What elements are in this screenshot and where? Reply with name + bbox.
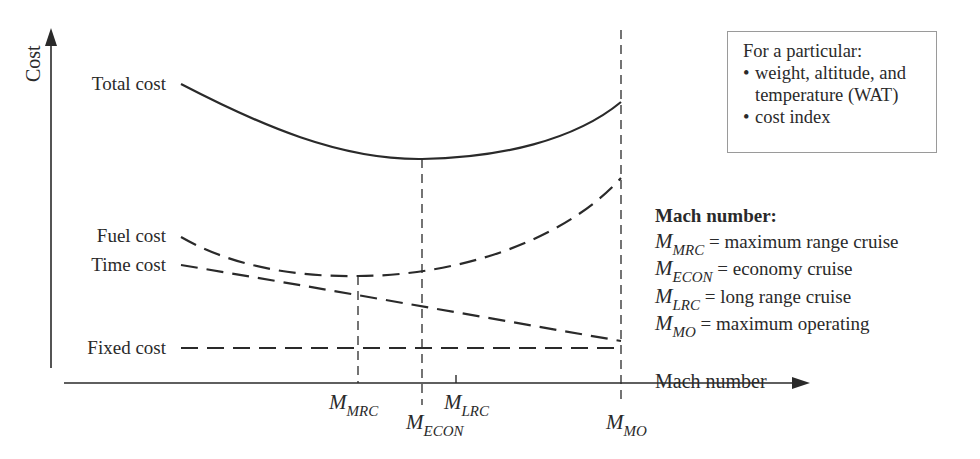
x-axis-label: Mach number bbox=[655, 371, 767, 391]
x-axis-arrow-icon bbox=[792, 377, 810, 389]
m-lrc-marker-label: MLRC bbox=[444, 392, 489, 413]
bullet-icon: • bbox=[743, 62, 755, 106]
legend-row-mo: MMO = maximum operating bbox=[655, 311, 899, 339]
fuel-cost-label: Fuel cost bbox=[97, 226, 166, 245]
legend-heading: Mach number: bbox=[655, 203, 899, 229]
bullet-icon: • bbox=[743, 106, 755, 128]
total-cost-curve bbox=[181, 84, 621, 159]
fuel-cost-curve bbox=[181, 178, 621, 276]
note-bullet-wat-line1: weight, altitude, and bbox=[755, 63, 906, 83]
cost-vs-mach-diagram: Cost Mach number Total cost Fuel cost Ti… bbox=[0, 0, 980, 459]
legend-row-mrc: MMRC = maximum range cruise bbox=[655, 229, 899, 257]
y-axis-label: Cost bbox=[22, 45, 45, 82]
time-cost-label: Time cost bbox=[91, 255, 166, 274]
mach-number-legend: Mach number: MMRC = maximum range cruise… bbox=[655, 203, 899, 339]
conditions-note-box: For a particular: • weight, altitude, an… bbox=[727, 31, 937, 153]
y-axis-arrow-icon bbox=[45, 28, 57, 46]
m-mrc-marker-label: MMRC bbox=[329, 392, 378, 413]
fixed-cost-label: Fixed cost bbox=[87, 338, 166, 357]
y-axis bbox=[45, 28, 57, 368]
m-econ-marker-label: MECON bbox=[406, 412, 464, 433]
note-heading: For a particular: bbox=[743, 40, 936, 62]
m-mo-marker-label: MMO bbox=[606, 412, 647, 433]
legend-row-econ: MECON = economy cruise bbox=[655, 256, 899, 284]
note-bullet-cost-index: • cost index bbox=[743, 106, 936, 128]
total-cost-label: Total cost bbox=[92, 74, 166, 93]
time-cost-curve bbox=[181, 265, 621, 341]
note-bullet-wat: • weight, altitude, and temperature (WAT… bbox=[743, 62, 936, 106]
note-bullet-wat-line2: temperature (WAT) bbox=[755, 85, 898, 105]
legend-row-lrc: MLRC = long range cruise bbox=[655, 284, 899, 312]
